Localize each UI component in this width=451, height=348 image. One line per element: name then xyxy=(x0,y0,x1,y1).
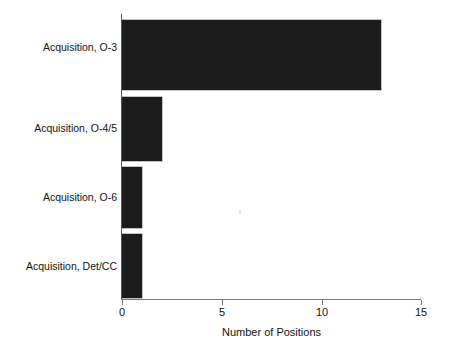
x-tick-mark-15 xyxy=(421,300,422,305)
y-tick-label-acquisition-o-4-5: Acquisition, O-4/5 xyxy=(0,122,117,134)
x-tick-label-5: 5 xyxy=(202,306,242,319)
bar-chart: Acquisition, O-3 Acquisition, O-4/5 Acqu… xyxy=(0,0,451,348)
y-axis-line xyxy=(121,14,122,300)
x-tick-label-15: 15 xyxy=(401,306,441,319)
bar-acquisition-o-6 xyxy=(122,167,142,228)
y-tick-label-acquisition-o-6: Acquisition, O-6 xyxy=(0,191,117,203)
x-tick-label-0: 0 xyxy=(102,306,142,319)
x-tick-mark-5 xyxy=(222,300,223,305)
bar-acquisition-o-4-5 xyxy=(122,97,162,161)
x-axis-title: Number of Positions xyxy=(122,326,421,339)
y-tick-label-acquisition-o-3: Acquisition, O-3 xyxy=(0,41,117,53)
bar-acquisition-o-3 xyxy=(122,20,381,90)
x-axis-line xyxy=(121,299,421,300)
bar-acquisition-det-cc xyxy=(122,234,142,298)
x-tick-mark-0 xyxy=(122,300,123,305)
y-tick-label-acquisition-det-cc: Acquisition, Det/CC xyxy=(0,260,117,272)
plot-area xyxy=(122,14,421,300)
x-tick-label-10: 10 xyxy=(302,306,342,319)
scan-artifact xyxy=(239,211,241,214)
x-tick-mark-10 xyxy=(322,300,323,305)
